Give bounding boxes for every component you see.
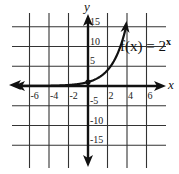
x-tick-label: 4 bbox=[128, 90, 133, 101]
function-label: f(x) = 2x bbox=[120, 36, 171, 55]
function-label-main: f(x) = 2 bbox=[120, 38, 166, 55]
y-axis-label: y bbox=[82, 0, 90, 14]
x-tick-label: -6 bbox=[31, 90, 39, 101]
x-tick-label: -2 bbox=[70, 90, 78, 101]
function-label-exponent: x bbox=[166, 36, 171, 47]
exponential-graph: -6-4-224615105-5-10-15 x y f(x) = 2x bbox=[0, 0, 179, 174]
y-tick-label: 15 bbox=[90, 16, 100, 27]
y-tick-label: 5 bbox=[90, 55, 95, 66]
x-tick-label: -4 bbox=[50, 90, 58, 101]
y-tick-label: -5 bbox=[90, 95, 98, 106]
x-axis-label: x bbox=[167, 77, 174, 92]
y-tick-label: -15 bbox=[90, 134, 103, 145]
y-tick-label: -10 bbox=[90, 115, 103, 126]
exponential-curve bbox=[22, 29, 126, 86]
x-tick-label: 6 bbox=[148, 90, 153, 101]
point-0-1 bbox=[85, 79, 90, 84]
y-tick-label: 10 bbox=[90, 36, 100, 47]
x-tick-label: 2 bbox=[109, 90, 114, 101]
function-curve bbox=[9, 21, 130, 90]
